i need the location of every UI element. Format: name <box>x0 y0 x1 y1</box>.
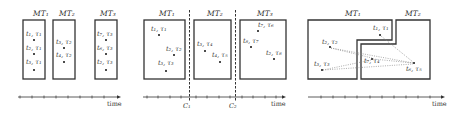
mt1-title: MT₁ <box>344 9 361 18</box>
cut-c2-label: C₂ <box>229 102 237 110</box>
event-label: t₂, τ₂ <box>322 38 338 46</box>
mt-diagram: MT₁ t₁, τ₁ t₂, τ₁ t₃, τ₁ MT₂ t₃, τ₂ t₄, … <box>0 0 464 117</box>
event-point <box>33 39 35 41</box>
event-label: t₂, τ₃ <box>97 58 113 66</box>
event-point <box>63 47 65 49</box>
axis-label: time <box>271 100 286 108</box>
event-point <box>371 58 373 60</box>
panel-b: MT₁ t₁, τ₁ t₂, τ₂ t₃, τ₃ MT₂ t₃, τ₄ t₄, … <box>143 9 286 110</box>
event-label: t₆, τ₃ <box>97 44 113 52</box>
panel-a: MT₁ t₁, τ₁ t₂, τ₁ t₃, τ₁ MT₂ t₃, τ₂ t₄, … <box>18 9 122 108</box>
event-point <box>413 62 415 64</box>
panel-b-mt3: MT₃ t₇, τ₆ t₈, τ₇ t₂, τ₈ <box>240 9 286 79</box>
event-point <box>158 34 160 36</box>
event-point <box>105 39 107 41</box>
event-label: t₃, τ₁ <box>26 58 42 66</box>
event-point <box>204 50 206 52</box>
event-label: t₂, τ₁ <box>26 44 42 52</box>
event-label: t₂, τ₈ <box>266 49 282 57</box>
mt1-title: MT₁ <box>32 9 49 18</box>
arrow-head-icon <box>282 95 286 98</box>
event-label: t₇, τ₃ <box>97 30 113 38</box>
event-point <box>63 61 65 63</box>
event-point <box>329 46 331 48</box>
event-label: t₃, τ₃ <box>158 59 174 67</box>
mt2-title: MT₂ <box>206 9 223 18</box>
axis-label: time <box>107 100 122 108</box>
event-label: t₃, τ₂ <box>56 38 72 46</box>
event-point <box>219 61 221 63</box>
panel-b-mt1: MT₁ t₁, τ₁ t₂, τ₂ t₃, τ₃ <box>144 9 185 79</box>
event-label: t₃, τ₃ <box>314 60 330 68</box>
event-point <box>165 70 167 72</box>
event-point <box>33 53 35 55</box>
mt2-box <box>53 20 75 79</box>
panel-c-time-axis: time <box>308 95 447 108</box>
panel-b-time-axis: time <box>143 95 286 108</box>
cut-c1-label: C₁ <box>183 102 191 110</box>
cut-lines: C₁ C₂ <box>183 10 237 110</box>
mt2-title: MT₂ <box>58 9 75 18</box>
mt3-title: MT₃ <box>256 9 273 18</box>
mt1-title: MT₁ <box>158 9 175 18</box>
event-point <box>105 69 107 71</box>
event-label: t₄, τ₂ <box>56 51 72 59</box>
event-point <box>273 58 275 60</box>
event-point <box>250 46 252 48</box>
mt3-title: MT₃ <box>99 9 116 18</box>
event-point <box>173 54 175 56</box>
event-label: t₄, τ₅ <box>212 51 228 59</box>
event-point <box>321 69 323 71</box>
panel-a-mt1: MT₁ t₁, τ₁ t₂, τ₁ t₃, τ₁ <box>23 9 49 79</box>
event-label: t₁, τ₁ <box>26 30 42 38</box>
event-label: t₇, τ₆ <box>258 21 274 29</box>
event-label: t₈, τ₇ <box>243 37 259 45</box>
event-point <box>379 34 381 36</box>
event-label: t₁, τ₁ <box>373 24 389 32</box>
event-label: t₆, τ₅ <box>406 65 422 73</box>
panel-a-time-axis: time <box>18 95 122 108</box>
panel-b-mt2: MT₂ t₃, τ₄ t₄, τ₅ <box>194 9 231 79</box>
panel-c: MT₁ t₁, τ₁ t₂, τ₂ t₃, τ₃ MT₂ t₇, τ₄ t₆, … <box>308 9 447 108</box>
mt2-box <box>194 20 231 79</box>
arrow-head-icon <box>441 95 445 98</box>
event-label: t₂, τ₂ <box>166 45 182 53</box>
event-label: t₁, τ₁ <box>151 25 167 33</box>
event-point <box>33 69 35 71</box>
axis-label: time <box>432 100 447 108</box>
panel-a-mt3: MT₃ t₇, τ₃ t₆, τ₃ t₂, τ₃ <box>95 9 117 79</box>
event-point <box>257 30 259 32</box>
panel-a-mt2: MT₂ t₃, τ₂ t₄, τ₂ <box>53 9 75 79</box>
mt2-title: MT₂ <box>404 9 421 18</box>
arrow-head-icon <box>117 95 121 98</box>
event-point <box>105 53 107 55</box>
event-label: t₃, τ₄ <box>197 40 213 48</box>
